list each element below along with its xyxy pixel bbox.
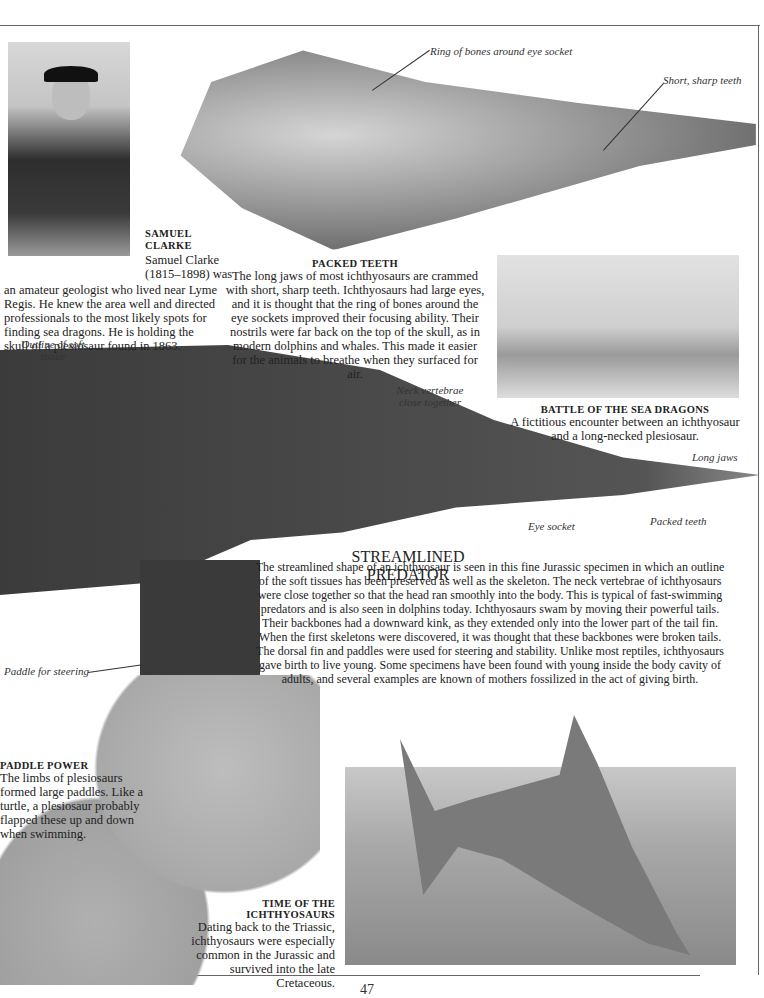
page-number: 47 [360,982,374,998]
time-heading-line1: TIME OF THE [190,898,335,909]
battle-engraving-image [497,255,739,398]
frame-top-rule [0,25,760,26]
clarke-heading: SAMUEL CLARKE [145,228,192,252]
label-ring-of-bones: Ring of bones around eye socket [430,45,572,57]
label-outline-soft-tissue: Outline of soft tissue [18,338,88,362]
battle-block: BATTLE OF THE SEA DRAGONS A fictitious e… [500,404,750,443]
clarke-hat [44,66,98,82]
packed-teeth-heading: PACKED TEETH [225,258,485,269]
label-packed-teeth: Packed teeth [650,515,707,527]
packed-teeth-block: PACKED TEETH The long jaws of most ichth… [225,258,485,381]
packed-teeth-body: The long jaws of most ichthyosaurs are c… [225,269,485,381]
frame-right-rule [758,25,759,975]
time-heading-line2: ICHTHYOSAURS [190,909,335,920]
clarke-heading-line1: SAMUEL [145,228,192,240]
clarke-intro: Samuel Clarke (1815–1898) was [145,253,232,281]
label-neck-vertebrae: Neck vertebrae close together [385,384,475,408]
predator-body: The streamlined shape of an ichthyosaur … [255,560,725,686]
label-paddle-steering: Paddle for steering [4,665,89,677]
label-long-jaws: Long jaws [692,451,738,463]
leader-paddle [88,664,143,673]
paddle-power-block: PADDLE POWER The limbs of plesiosaurs fo… [0,760,150,841]
battle-heading: BATTLE OF THE SEA DRAGONS [500,404,750,415]
clarke-intro-line2: (1815–1898) was [145,267,232,281]
clarke-intro-line1: Samuel Clarke [145,253,232,267]
paddle-power-heading: PADDLE POWER [0,760,150,771]
time-block: TIME OF THE ICHTHYOSAURS Dating back to … [190,898,335,990]
label-short-sharp-teeth: Short, sharp teeth [663,74,742,86]
ichthyosaur-skull-image [150,40,762,250]
paddle-power-body: The limbs of plesiosaurs formed large pa… [0,771,150,841]
battle-body: A fictitious encounter between an ichthy… [500,415,750,443]
label-eye-socket: Eye socket [528,520,575,532]
time-body: Dating back to the Triassic, ichthyosaur… [190,920,335,990]
clarke-heading-line2: CLARKE [145,240,192,252]
